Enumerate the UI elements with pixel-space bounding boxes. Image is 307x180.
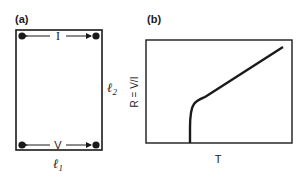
panel-b: (b) R = V/I T bbox=[129, 13, 292, 165]
length-l2-label: ℓ2 bbox=[107, 80, 117, 97]
panel-b-label: (b) bbox=[147, 13, 161, 25]
voltage-label: V bbox=[54, 139, 62, 151]
length-l1-label: ℓ1 bbox=[53, 156, 63, 173]
resistance-curve bbox=[190, 47, 283, 143]
sample-rectangle bbox=[16, 30, 102, 150]
contact-top-left bbox=[18, 32, 25, 39]
panel-a: (a) I V ℓ2 ℓ1 bbox=[15, 13, 117, 173]
contact-bottom-left bbox=[18, 141, 25, 148]
contact-bottom-right bbox=[92, 141, 99, 148]
y-axis-label: R = V/I bbox=[129, 77, 140, 108]
current-label: I bbox=[56, 29, 60, 43]
diagram-canvas: (a) I V ℓ2 ℓ1 (b) R = V/I T bbox=[0, 0, 307, 180]
contact-top-right bbox=[92, 32, 99, 39]
x-axis-label: T bbox=[215, 153, 222, 165]
panel-a-label: (a) bbox=[15, 13, 29, 25]
